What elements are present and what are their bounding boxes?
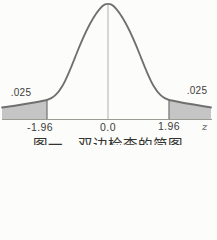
x-tick-label-0-0: 0.0 <box>94 122 122 133</box>
left-tail-area-label: .025 <box>7 88 35 98</box>
x-tick-label-1-96: 1.96 <box>154 121 184 132</box>
x-axis-variable-label: z <box>202 122 207 132</box>
x-tick-label-neg-1-96: -1.96 <box>23 122 57 133</box>
left-tail-shaded-region <box>2 100 47 119</box>
right-tail-area-label: .025 <box>183 86 211 96</box>
figure-caption: 图一 双边检查的简图 <box>33 133 183 145</box>
right-tail-shaded-region <box>169 100 211 119</box>
